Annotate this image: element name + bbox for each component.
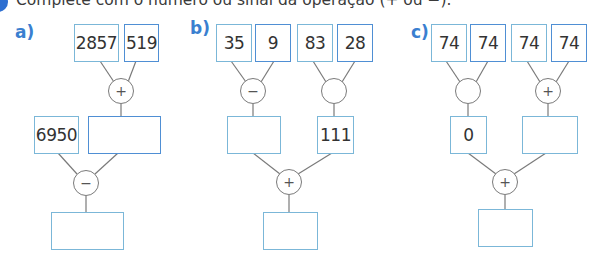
problem-c-top-box-2[interactable]: 74 (470, 24, 506, 62)
problem-b-top-box-2[interactable]: 9 (255, 24, 291, 62)
problem-c-mid-box-2-answer[interactable] (522, 116, 578, 154)
problem-b-left-minus-operator-icon[interactable]: − (240, 78, 266, 104)
problem-a-mid-box-2-answer[interactable] (88, 116, 161, 154)
problem-b-label: b) (190, 18, 210, 38)
problem-b-top-box-3[interactable]: 83 (297, 24, 333, 62)
problem-a-minus-operator-icon[interactable]: − (73, 170, 99, 196)
problem-b-top-box-1[interactable]: 35 (216, 24, 252, 62)
problem-c-right-plus-operator-icon[interactable]: + (535, 78, 561, 104)
problem-b-top-box-4[interactable]: 28 (337, 24, 373, 62)
problem-a-plus-operator-icon[interactable]: + (108, 78, 134, 104)
problem-b-plus-operator-icon[interactable]: + (276, 169, 302, 195)
problem-a-top-box-1[interactable]: 2857 (74, 24, 119, 62)
exercise-diagram: Complete com o número ou sinal da operaç… (0, 0, 592, 259)
problem-b-right-blank-operator-icon[interactable] (321, 78, 347, 104)
problem-b-mid-box-1-answer[interactable] (227, 116, 281, 154)
problem-c-result-box[interactable] (478, 209, 533, 247)
problem-c-label: c) (411, 22, 429, 42)
problem-c-top-box-1[interactable]: 74 (431, 24, 467, 62)
problem-a-top-box-2[interactable]: 519 (124, 24, 159, 62)
problem-b-result-box[interactable] (263, 212, 318, 250)
problem-a-mid-box-1[interactable]: 6950 (34, 116, 79, 154)
problem-a-result-box[interactable] (51, 212, 124, 250)
problem-c-plus-operator-icon[interactable]: + (492, 169, 518, 195)
problem-a-label: a) (15, 22, 34, 42)
problem-c-top-box-3[interactable]: 74 (511, 24, 547, 62)
problem-c-top-box-4[interactable]: 74 (551, 24, 587, 62)
problem-c-left-blank-operator-icon[interactable] (455, 78, 481, 104)
problem-c-mid-box-1[interactable]: 0 (450, 116, 487, 154)
problem-b-mid-box-2[interactable]: 111 (317, 116, 354, 154)
